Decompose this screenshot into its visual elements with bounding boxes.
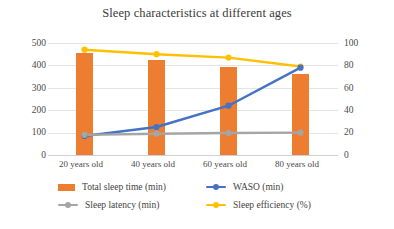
legend-label-waso: WASO (min)	[233, 182, 283, 192]
legend-item-sleep-efficiency[interactable]: Sleep efficiency (%)	[206, 196, 336, 214]
legend-line-marker-icon-latency	[58, 201, 78, 210]
y-axis-tick-left-1: 400	[6, 61, 46, 71]
legend-line-marker-icon-waso	[206, 183, 226, 192]
markers-sleep-efficiency	[81, 47, 303, 70]
y-axis-tick-right-3: 40	[344, 106, 384, 116]
legend-label-sleep-latency: Sleep latency (min)	[85, 200, 159, 210]
x-axis-tick-2: 60 years old	[188, 160, 262, 169]
y-axis-tick-left-5: 0	[6, 151, 46, 161]
y-axis-tick-right-0: 100	[344, 39, 384, 49]
y-axis-tick-right-4: 20	[344, 128, 384, 138]
legend-item-total-sleep-time[interactable]: Total sleep time (min)	[58, 178, 206, 196]
markers-waso	[81, 65, 303, 140]
legend-line-marker-icon-efficiency	[206, 201, 226, 210]
y-axis-tick-right-1: 80	[344, 61, 384, 71]
x-axis-tick-0: 20 years old	[44, 160, 118, 169]
legend-bar-swatch-icon	[58, 184, 75, 191]
x-axis-tick-1: 40 years old	[116, 160, 190, 169]
y-axis-tick-left-4: 100	[6, 128, 46, 138]
legend-row-2: Sleep latency (min) Sleep efficiency (%)	[0, 196, 394, 214]
chart-legend: Total sleep time (min) WASO (min) Sleep …	[0, 178, 394, 222]
y-axis-tick-right-2: 60	[344, 84, 384, 94]
legend-label-sleep-efficiency: Sleep efficiency (%)	[233, 200, 311, 210]
chart-container: Sleep characteristics at different ages …	[0, 0, 394, 229]
line-sleep-efficiency	[85, 50, 301, 67]
y-axis-tick-left-0: 500	[6, 39, 46, 49]
y-axis-tick-left-2: 300	[6, 84, 46, 94]
y-axis-tick-right-5: 0	[344, 151, 384, 161]
line-series-overlay	[48, 43, 338, 155]
legend-item-sleep-latency[interactable]: Sleep latency (min)	[58, 196, 206, 214]
plot-area	[48, 43, 338, 155]
chart-title: Sleep characteristics at different ages	[0, 6, 394, 21]
x-axis-tick-3: 80 years old	[260, 160, 334, 169]
legend-row-1: Total sleep time (min) WASO (min)	[0, 178, 394, 196]
legend-item-waso[interactable]: WASO (min)	[206, 178, 336, 196]
x-axis-line	[48, 155, 338, 156]
legend-label-total-sleep-time: Total sleep time (min)	[82, 182, 166, 192]
y-axis-tick-left-3: 200	[6, 106, 46, 116]
line-waso	[85, 68, 301, 136]
